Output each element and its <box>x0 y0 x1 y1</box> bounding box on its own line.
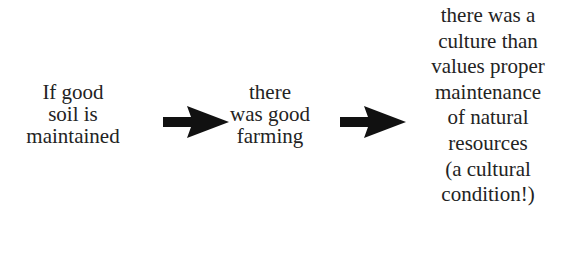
node-cause: If good soil is maintained <box>13 81 133 147</box>
node-line: (a cultural <box>398 157 578 183</box>
node-line: resources <box>398 131 578 157</box>
node-condition: there was a culture than values proper m… <box>398 3 578 208</box>
node-line: maintained <box>13 125 133 147</box>
node-line: maintenance <box>398 80 578 106</box>
node-line: culture than <box>398 29 578 55</box>
node-line: soil is <box>13 103 133 125</box>
node-line: If good <box>13 81 133 103</box>
node-line: farming <box>210 125 330 147</box>
node-line: condition!) <box>398 182 578 208</box>
node-line: there was a <box>398 3 578 29</box>
node-line: of natural <box>398 105 578 131</box>
node-line: was good <box>210 103 330 125</box>
node-effect: there was good farming <box>210 81 330 147</box>
node-line: values proper <box>398 54 578 80</box>
node-line: there <box>210 81 330 103</box>
